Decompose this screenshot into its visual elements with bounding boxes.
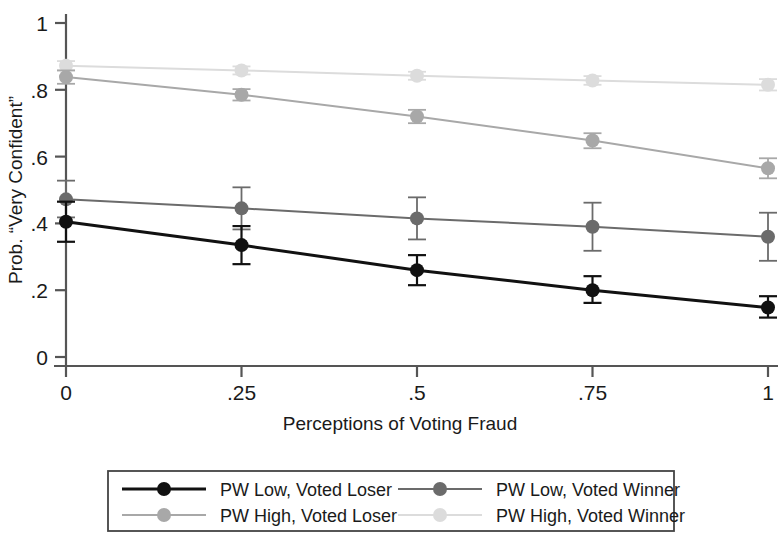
data-point-marker: [410, 110, 424, 124]
x-tick-label: 1: [762, 381, 774, 404]
y-tick-label: .2: [30, 279, 48, 302]
y-tick-label: 1: [36, 12, 48, 35]
y-tick-label: .4: [30, 212, 48, 235]
legend-item-label: PW Low, Voted Loser: [220, 480, 392, 500]
series-layer: [57, 59, 777, 318]
x-tick-label: .75: [578, 381, 607, 404]
x-tick-label: .5: [408, 381, 426, 404]
legend-item-label: PW Low, Voted Winner: [496, 480, 680, 500]
legend-marker-swatch: [433, 482, 447, 496]
data-point-marker: [761, 78, 775, 92]
data-point-marker: [586, 73, 600, 87]
data-point-marker: [586, 283, 600, 297]
data-point-marker: [235, 201, 249, 215]
y-tick-label: 0: [36, 346, 48, 369]
data-point-marker: [235, 63, 249, 77]
legend-item-label: PW High, Voted Loser: [220, 506, 397, 526]
legend-marker-swatch: [433, 508, 447, 522]
data-point-marker: [59, 215, 73, 229]
data-point-marker: [761, 301, 775, 315]
data-point-marker: [761, 161, 775, 175]
chart-legend: PW Low, Voted LoserPW Low, Voted WinnerP…: [108, 471, 685, 531]
data-point-marker: [410, 211, 424, 225]
chart-series: [57, 181, 777, 261]
y-axis-label: Prob. “Very Confident”: [5, 96, 26, 284]
y-tick-label: .6: [30, 146, 48, 169]
data-point-marker: [410, 69, 424, 83]
x-tick-label: .25: [227, 381, 256, 404]
axes: [54, 14, 778, 366]
data-point-marker: [235, 238, 249, 252]
data-point-marker: [761, 230, 775, 244]
chart-figure: Prob. “Very Confident” 0.2.4.6.81 0.25.5…: [0, 0, 782, 535]
y-tick-label: .8: [30, 79, 48, 102]
data-point-marker: [410, 263, 424, 277]
x-axis-label: Perceptions of Voting Fraud: [283, 413, 517, 434]
data-point-marker: [235, 88, 249, 102]
x-tick-label: 0: [60, 381, 72, 404]
data-point-marker: [59, 70, 73, 84]
chart-series: [57, 70, 777, 178]
data-point-marker: [586, 220, 600, 234]
legend-item-label: PW High, Voted Winner: [496, 506, 685, 526]
data-point-marker: [586, 134, 600, 148]
line-chart: Prob. “Very Confident” 0.2.4.6.81 0.25.5…: [0, 0, 782, 535]
legend-marker-swatch: [157, 482, 171, 496]
legend-marker-swatch: [157, 508, 171, 522]
x-axis-ticks: 0.25.5.751: [60, 366, 774, 404]
